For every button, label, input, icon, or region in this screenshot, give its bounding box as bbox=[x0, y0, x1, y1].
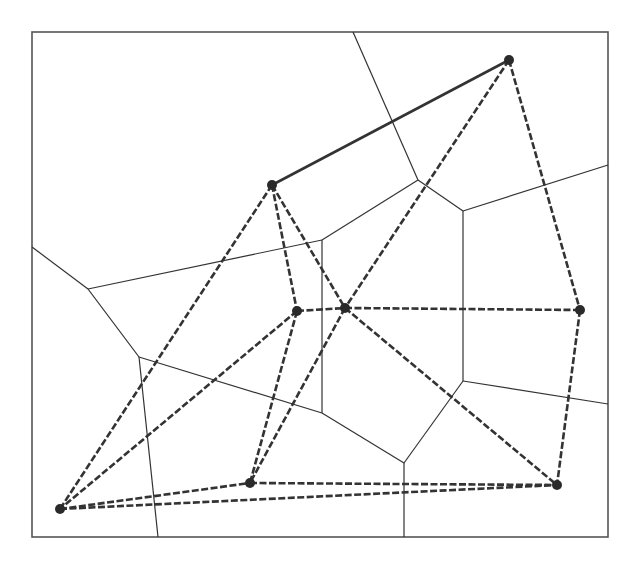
delaunay-edge-D-H bbox=[345, 308, 557, 485]
delaunay-edge-B-D bbox=[345, 60, 509, 308]
delaunay-edge-F-H bbox=[60, 485, 557, 509]
voronoi-edge bbox=[88, 289, 139, 357]
site-node-C bbox=[292, 306, 302, 316]
delaunay-edge-B-E bbox=[509, 60, 580, 310]
site-node-D bbox=[340, 303, 350, 313]
voronoi-edge bbox=[322, 413, 404, 463]
voronoi-edge bbox=[404, 381, 463, 463]
voronoi-edge bbox=[32, 247, 88, 289]
delaunay-edge-G-H bbox=[250, 483, 557, 485]
voronoi-edge bbox=[463, 381, 608, 404]
site-node-G bbox=[245, 478, 255, 488]
delaunay-edge-C-D bbox=[297, 308, 345, 311]
voronoi-delaunay-diagram bbox=[0, 0, 635, 567]
voronoi-edge bbox=[418, 180, 463, 211]
delaunay-edge-C-F bbox=[60, 311, 297, 509]
site-node-A bbox=[267, 180, 277, 190]
delaunay-edge-E-H bbox=[557, 310, 580, 485]
voronoi-edge bbox=[463, 165, 608, 211]
site-node-H bbox=[552, 480, 562, 490]
site-node-F bbox=[55, 504, 65, 514]
delaunay-edge-D-E bbox=[345, 308, 580, 310]
delaunay-edges bbox=[60, 60, 580, 509]
site-node-E bbox=[575, 305, 585, 315]
site-node-B bbox=[504, 55, 514, 65]
delaunay-edge-A-F bbox=[60, 185, 272, 509]
voronoi-edge bbox=[353, 32, 418, 180]
delaunay-edge-A-B bbox=[272, 60, 509, 185]
delaunay-edge-C-G bbox=[250, 311, 297, 483]
voronoi-edge bbox=[322, 180, 418, 240]
